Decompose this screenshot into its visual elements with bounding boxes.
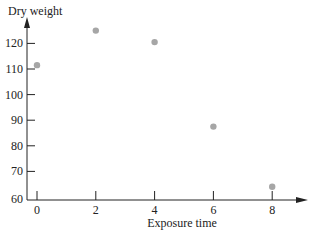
y-tick-label: 120 [5,36,23,50]
y-axis-arrow-icon [24,17,30,28]
data-point [269,184,275,190]
y-tick-label: 60 [11,192,23,206]
x-tick-label: 0 [34,203,40,217]
x-axis-arrow-icon [296,197,308,203]
data-point [34,62,40,68]
scatter-chart: 6070809010011012002468 Dry weight Exposu… [0,0,317,235]
x-tick-label: 4 [152,203,158,217]
y-tick-label: 70 [11,164,23,178]
y-tick-label: 80 [11,139,23,153]
x-tick-label: 8 [269,203,275,217]
data-point [151,39,157,45]
y-tick-label: 110 [5,62,23,76]
y-tick-label: 90 [11,113,23,127]
x-axis-label: Exposure time [147,216,217,230]
x-tick-label: 2 [93,203,99,217]
y-axis-label: Dry weight [8,4,63,18]
x-tick-label: 6 [210,203,216,217]
data-points [34,27,276,190]
data-point [210,123,216,129]
axes: 6070809010011012002468 [5,17,308,217]
y-tick-label: 100 [5,88,23,102]
data-point [93,27,99,33]
